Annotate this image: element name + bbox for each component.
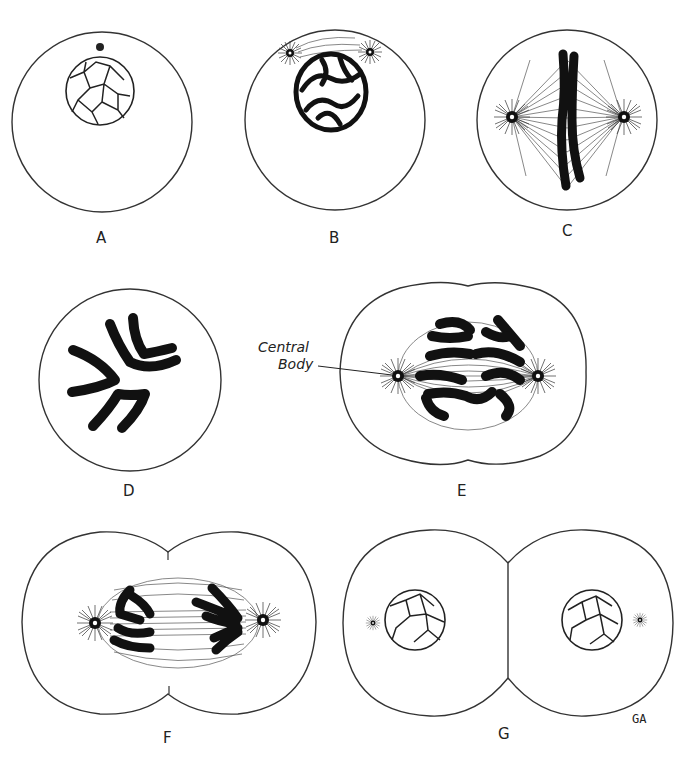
- nucleus: [66, 57, 134, 125]
- chromosomes: [72, 318, 176, 428]
- aster-icon: [77, 605, 113, 641]
- panel-a: A: [12, 32, 192, 247]
- annotation-leader-line: [318, 366, 392, 375]
- centrosome-icon: [366, 616, 380, 630]
- aster-icon: [606, 99, 642, 135]
- panel-e: Central Body E: [258, 282, 586, 500]
- nucleus: [296, 54, 366, 130]
- panel-label-e: E: [457, 482, 466, 500]
- central-body-icon: [380, 358, 416, 394]
- panel-f: F: [22, 532, 316, 747]
- aster-icon: [520, 358, 556, 394]
- chromosomes: [114, 588, 238, 650]
- artist-signature: GA: [632, 712, 647, 726]
- panel-label-g: G: [498, 725, 510, 743]
- panel-g: G GA: [343, 530, 673, 743]
- annotation-central-label: Central: [258, 339, 309, 355]
- annotation-body-label: Body: [278, 356, 314, 372]
- panel-d: D: [39, 289, 221, 500]
- panel-b: B: [245, 30, 425, 247]
- panel-label-c: C: [562, 222, 572, 240]
- chromosomes: [562, 54, 581, 186]
- aster-icon: [358, 40, 382, 64]
- nucleus-right: [562, 590, 622, 650]
- aster-icon: [278, 41, 302, 65]
- mitosis-diagram: A B C D: [0, 0, 686, 768]
- panel-label-d: D: [123, 482, 135, 500]
- aster-icon: [494, 99, 530, 135]
- panel-c: C: [477, 30, 657, 240]
- panel-label-f: F: [163, 729, 172, 747]
- panel-label-a: A: [96, 229, 107, 247]
- centrosome-icon: [96, 43, 104, 51]
- centrosome-icon: [633, 613, 647, 627]
- nucleus-left: [385, 590, 445, 650]
- aster-icon: [245, 602, 281, 638]
- panel-label-b: B: [329, 229, 339, 247]
